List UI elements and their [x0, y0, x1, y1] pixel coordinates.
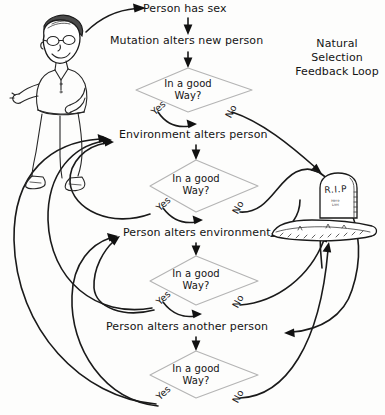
- grave-sub-label: Here Lies: [331, 199, 340, 207]
- process-person-alters-environment: Person alters environment: [123, 226, 271, 239]
- process-environment-alters-person: Environment alters person: [119, 128, 268, 141]
- process-person-alters-another-person: Person alters another person: [106, 320, 268, 333]
- process-mutation-alters-new-person: Mutation alters new person: [110, 34, 263, 47]
- decision-label-4: In a good Way?: [157, 363, 235, 386]
- grave-rip-label: R.I.P: [324, 183, 347, 197]
- diagram-title: Natural Selection Feedback Loop: [289, 37, 385, 79]
- natural-selection-feedback-loop-diagram: Natural Selection Feedback Loop Person h…: [0, 0, 385, 415]
- process-person-has-sex: Person has sex: [143, 2, 227, 15]
- decision-label-2: In a good Way?: [157, 173, 235, 196]
- decision-label-3: In a good Way?: [157, 268, 235, 291]
